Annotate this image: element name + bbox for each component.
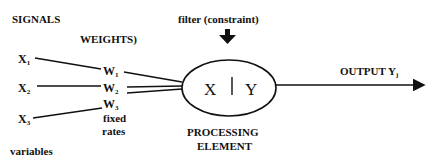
svg-text:X2: X2 — [18, 81, 31, 96]
input-x3-name: X — [18, 112, 27, 126]
connection-w3-node — [127, 89, 182, 93]
connection-x1-w1 — [35, 58, 101, 69]
processing-element-ellipse — [182, 60, 276, 116]
input-x1-name: X — [18, 52, 27, 66]
neuron-diagram: SIGNALS WEIGHTS) filter (constraint) X1 … — [0, 0, 438, 164]
weight-w3-sub: 3 — [115, 104, 119, 112]
weight-w3: W3 — [103, 97, 119, 112]
input-x3: X3 — [18, 112, 31, 127]
svg-text:W2: W2 — [103, 81, 119, 96]
connection-w2-node — [127, 86, 182, 87]
weight-w3-name: W — [103, 97, 115, 111]
input-x3-sub: 3 — [27, 119, 31, 127]
signals-label: SIGNALS — [12, 13, 60, 25]
filter-label: filter (constraint) — [178, 13, 259, 26]
weights-label: WEIGHTS) — [80, 33, 137, 46]
weight-w2: W2 — [103, 81, 119, 96]
filter-arrow-icon — [219, 29, 236, 44]
input-x1: X1 — [18, 52, 31, 67]
weight-w2-sub: 2 — [115, 88, 119, 96]
element-label: ELEMENT — [197, 140, 253, 152]
rates-label: rates — [102, 125, 126, 137]
weight-w1-sub: 1 — [115, 71, 119, 79]
svg-text:X3: X3 — [18, 112, 31, 127]
svg-text:X1: X1 — [18, 52, 31, 67]
fixed-label: fixed — [103, 112, 126, 124]
input-x2-name: X — [18, 81, 27, 95]
input-x2: X2 — [18, 81, 31, 96]
output-label: OUTPUT Yj — [340, 65, 398, 79]
variables-label: variables — [10, 145, 53, 157]
input-x1-sub: 1 — [27, 59, 31, 67]
input-x2-sub: 2 — [27, 88, 31, 96]
node-input-label: X — [204, 80, 216, 99]
svg-text:W1: W1 — [103, 64, 119, 79]
processing-label: PROCESSING — [187, 126, 259, 138]
connection-w1-node — [124, 72, 182, 82]
weight-w1: W1 — [103, 64, 119, 79]
node-output-label: Y — [245, 80, 257, 99]
connection-x3-w3 — [33, 108, 102, 118]
weight-w1-name: W — [103, 64, 115, 78]
svg-text:W3: W3 — [103, 97, 119, 112]
weight-w2-name: W — [103, 81, 115, 95]
